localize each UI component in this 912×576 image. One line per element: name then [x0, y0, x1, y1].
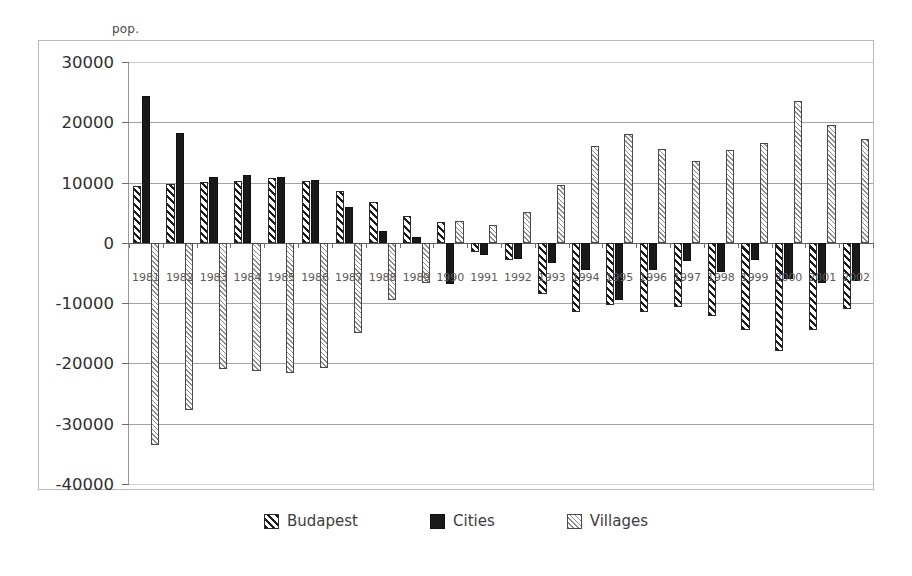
x-tick-mark	[839, 243, 840, 248]
bar-villages-1991	[489, 225, 497, 243]
bar-budapest-1987	[336, 191, 344, 243]
x-tick-mark	[433, 243, 434, 248]
x-tick-label-1995: 1995	[606, 271, 634, 284]
bar-cities-1985	[277, 177, 285, 243]
legend-item-budapest: Budapest	[264, 512, 358, 530]
x-tick-mark	[873, 243, 874, 248]
x-tick-mark	[366, 243, 367, 248]
bar-cities-1998	[717, 243, 725, 272]
x-tick-mark	[636, 243, 637, 248]
bar-cities-1983	[209, 177, 217, 243]
bar-villages-1994	[591, 146, 599, 242]
bar-budapest-1992	[505, 243, 513, 260]
bar-villages-1999	[760, 143, 768, 243]
y-tick-label: 0	[30, 233, 114, 252]
bar-budapest-1993	[538, 243, 546, 294]
chart-root: pop. 3000020000100000-10000-20000-30000-…	[0, 0, 912, 576]
x-tick-mark	[704, 243, 705, 248]
bar-villages-1985	[286, 243, 294, 373]
y-tick-mark	[122, 62, 129, 63]
y-tick-label: 20000	[30, 113, 114, 132]
bar-villages-1982	[185, 243, 193, 410]
x-tick-mark	[602, 243, 603, 248]
x-tick-mark	[197, 243, 198, 248]
y-tick-mark	[122, 303, 129, 304]
x-tick-mark	[501, 243, 502, 248]
x-tick-label-1986: 1986	[301, 271, 329, 284]
bar-cities-1986	[311, 180, 319, 243]
bar-budapest-1991	[471, 243, 479, 253]
x-tick-mark	[738, 243, 739, 248]
bar-cities-1997	[683, 243, 691, 261]
bar-villages-2002	[861, 139, 869, 243]
y-tick-mark	[122, 363, 129, 364]
x-tick-label-1992: 1992	[504, 271, 532, 284]
y-tick-mark	[122, 183, 129, 184]
legend-swatch-budapest-icon	[264, 514, 279, 529]
bar-budapest-1986	[302, 181, 310, 242]
bar-cities-1981	[142, 96, 150, 242]
x-tick-label-2002: 2002	[842, 271, 870, 284]
gridline	[129, 484, 873, 485]
legend-label-cities: Cities	[453, 512, 495, 530]
x-tick-mark	[772, 243, 773, 248]
y-tick-mark	[122, 122, 129, 123]
bar-villages-1995	[624, 134, 632, 243]
bar-villages-1987	[354, 243, 362, 333]
y-tick-mark	[122, 484, 129, 485]
x-tick-mark	[129, 243, 130, 248]
legend-swatch-villages-icon	[567, 514, 582, 529]
x-tick-label-1983: 1983	[200, 271, 228, 284]
bar-cities-1993	[548, 243, 556, 263]
bar-budapest-1999	[741, 243, 749, 330]
x-tick-label-2000: 2000	[775, 271, 803, 284]
x-tick-label-1997: 1997	[673, 271, 701, 284]
x-tick-mark	[535, 243, 536, 248]
x-tick-label-1999: 1999	[741, 271, 769, 284]
y-axis-title: pop.	[112, 22, 139, 36]
x-tick-mark	[264, 243, 265, 248]
x-tick-label-1991: 1991	[470, 271, 498, 284]
x-tick-label-1998: 1998	[707, 271, 735, 284]
x-tick-label-1989: 1989	[403, 271, 431, 284]
bar-cities-1996	[649, 243, 657, 270]
x-tick-mark	[332, 243, 333, 248]
bar-budapest-1984	[234, 181, 242, 242]
legend-item-villages: Villages	[567, 512, 648, 530]
bar-budapest-2001	[809, 243, 817, 330]
bar-villages-1986	[320, 243, 328, 368]
bar-cities-1989	[412, 237, 420, 242]
y-tick-label: 30000	[30, 53, 114, 72]
bar-cities-1992	[514, 243, 522, 259]
bar-cities-1999	[751, 243, 759, 260]
x-tick-label-2001: 2001	[808, 271, 836, 284]
x-tick-mark	[569, 243, 570, 248]
x-tick-label-1982: 1982	[166, 271, 194, 284]
legend-swatch-cities-icon	[430, 514, 445, 529]
bar-villages-1990	[455, 221, 463, 243]
y-tick-label: -10000	[30, 294, 114, 313]
x-tick-label-1981: 1981	[132, 271, 160, 284]
bar-villages-1983	[219, 243, 227, 369]
x-tick-mark	[230, 243, 231, 248]
x-tick-mark	[467, 243, 468, 248]
x-tick-label-1988: 1988	[369, 271, 397, 284]
bar-villages-1993	[557, 185, 565, 243]
x-tick-mark	[298, 243, 299, 248]
bar-cities-1982	[176, 133, 184, 243]
bar-villages-1984	[252, 243, 260, 371]
chart-legend: BudapestCitiesVillages	[0, 512, 912, 530]
legend-label-villages: Villages	[590, 512, 648, 530]
bar-villages-2001	[827, 125, 835, 243]
y-tick-label: -40000	[30, 475, 114, 494]
x-tick-label-1985: 1985	[267, 271, 295, 284]
legend-label-budapest: Budapest	[287, 512, 358, 530]
bar-villages-1997	[692, 161, 700, 242]
x-tick-label-1994: 1994	[572, 271, 600, 284]
x-tick-mark	[400, 243, 401, 248]
bar-villages-2000	[794, 101, 802, 243]
x-tick-label-1993: 1993	[538, 271, 566, 284]
x-tick-label-1990: 1990	[436, 271, 464, 284]
x-tick-label-1987: 1987	[335, 271, 363, 284]
bar-cities-1988	[379, 231, 387, 243]
